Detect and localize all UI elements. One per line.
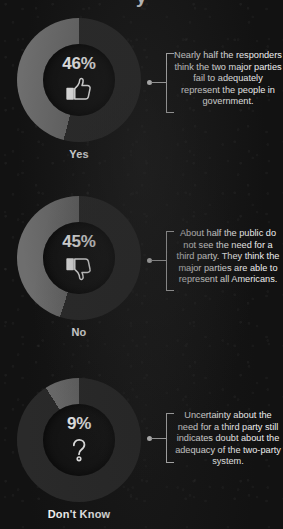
callout-bracket [166,413,174,463]
callout-text-yes: Nearly half the responders think the two… [174,50,282,108]
callout-text-no: About half the public do not see the nee… [174,228,282,286]
donut-chart-yes: 46% [17,18,141,142]
donut-value-label: 9% [67,415,91,432]
donut-category-label-yes: Yes [0,148,158,160]
donut-chart-dont-know: 9% [17,378,141,502]
donut-chart-no: 45% [17,196,141,320]
callout-stem [151,260,167,261]
donut-value-label: 45% [62,233,95,250]
donut-center-content: 45% [43,222,115,294]
callout-bracket [166,53,174,113]
callout-stem [151,438,167,439]
callout-stem [151,82,167,83]
thumbs-up-icon [64,75,94,105]
infographic-page: y 46% Yes Nearly half the responders thi… [0,0,283,529]
callout-text-dont-know: Uncertainty about the need for a third p… [174,410,282,468]
callout-dont-know: Uncertainty about the need for a third p… [143,378,283,502]
donut-category-label-dont-know: Don't Know [0,508,158,520]
donut-center-content: 46% [43,44,115,116]
callout-no: About half the public do not see the nee… [143,196,283,320]
donut-center-content: 9% [43,404,115,476]
callout-bracket [166,231,174,291]
donut-category-label-no: No [0,326,158,338]
page-title-partial: y [0,0,283,8]
question-mark-icon [64,435,94,465]
callout-yes: Nearly half the responders think the two… [143,18,283,142]
donut-value-label: 46% [62,55,95,72]
thumbs-down-icon [64,253,94,283]
